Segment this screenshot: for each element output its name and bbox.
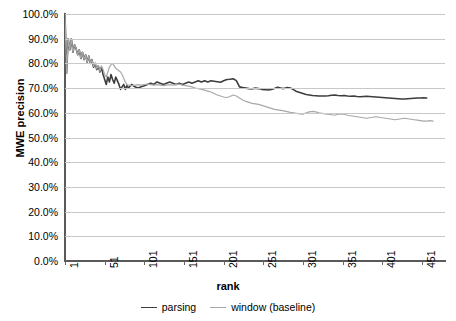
- x-tick-mark: [303, 261, 304, 265]
- y-tick-label: 40.0%: [12, 157, 58, 167]
- gridline: [65, 39, 445, 40]
- plot-area: [65, 14, 445, 261]
- y-tick-label: 20.0%: [12, 207, 58, 217]
- x-tick-mark: [105, 261, 106, 265]
- gridline: [65, 162, 445, 163]
- gridline: [65, 212, 445, 213]
- x-tick-label: 1: [69, 262, 79, 268]
- legend-swatch: [210, 307, 226, 308]
- x-tick-mark: [144, 261, 145, 265]
- x-tick-mark: [224, 261, 225, 265]
- x-tick-label: 201: [228, 250, 238, 268]
- x-tick-label: 101: [148, 250, 158, 268]
- x-tick-label: 151: [188, 250, 198, 268]
- series-line: [65, 14, 433, 121]
- legend-item: parsing: [141, 301, 196, 313]
- y-tick-label: 50.0%: [12, 133, 58, 143]
- legend-swatch: [141, 307, 157, 308]
- y-tick-label: 80.0%: [12, 58, 58, 68]
- y-axis-tick-labels: 100.0%90.0%80.0%70.0%60.0%50.0%40.0%30.0…: [8, 0, 58, 321]
- x-tick-label: 301: [307, 250, 317, 268]
- x-tick-label: 251: [267, 250, 277, 268]
- y-tick-label: 90.0%: [12, 34, 58, 44]
- gridline: [65, 187, 445, 188]
- gridline: [65, 88, 445, 89]
- y-tick-label: 60.0%: [12, 108, 58, 118]
- x-tick-mark: [65, 261, 66, 265]
- x-tick-label: 401: [386, 250, 396, 268]
- x-tick-mark: [263, 261, 264, 265]
- x-axis-title: rank: [0, 280, 456, 292]
- x-tick-mark: [343, 261, 344, 265]
- x-tick-label: 51: [109, 256, 119, 268]
- x-tick-mark: [382, 261, 383, 265]
- gridline: [65, 138, 445, 139]
- series-line: [65, 14, 427, 99]
- y-tick-label: 30.0%: [12, 182, 58, 192]
- gridline: [65, 113, 445, 114]
- gridline: [65, 14, 445, 15]
- legend-item: window (baseline): [210, 301, 315, 313]
- y-tick-label: 70.0%: [12, 83, 58, 93]
- x-tick-label: 351: [347, 250, 357, 268]
- x-tick-label: 451: [426, 250, 436, 268]
- x-tick-mark: [422, 261, 423, 265]
- gridline: [65, 236, 445, 237]
- chart-legend: parsingwindow (baseline): [0, 301, 456, 313]
- legend-label: parsing: [162, 301, 196, 313]
- y-tick-label: 100.0%: [12, 9, 58, 19]
- y-tick-label: 10.0%: [12, 231, 58, 241]
- gridline: [65, 63, 445, 64]
- x-tick-mark: [184, 261, 185, 265]
- line-chart: MWE precision 100.0%90.0%80.0%70.0%60.0%…: [0, 0, 456, 321]
- legend-label: window (baseline): [231, 301, 315, 313]
